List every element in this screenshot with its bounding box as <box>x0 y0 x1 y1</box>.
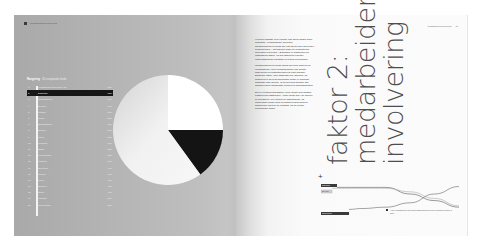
row-value: 41% <box>101 191 113 193</box>
note-bullet-icon <box>386 209 388 211</box>
legend-label: Danmark <box>322 184 330 186</box>
row-label: Medarbejderinvolvering i alt <box>35 86 101 88</box>
line-series <box>349 187 459 210</box>
running-title: Medarbejderinvolvering <box>30 22 57 25</box>
chart-note: Andel virksomheder med høj medarbejderin… <box>386 209 456 214</box>
row-value: 36% <box>101 204 113 206</box>
row-rank: 11 <box>27 148 35 150</box>
row-rank: 2 <box>27 92 35 94</box>
row-rank: 4 <box>27 105 35 107</box>
row-rank: 20 <box>27 204 35 206</box>
line-series <box>337 187 459 207</box>
pie-slice-white <box>168 75 223 130</box>
chart-note-text: Andel virksomheder med høj medarbejderin… <box>390 209 456 214</box>
pie-chart <box>110 72 226 188</box>
row-rank: 13 <box>27 160 35 162</box>
right-page: Medarbejderinvolvering 17 Hverken ansatt… <box>236 15 468 236</box>
row-rank: 18 <box>27 191 35 193</box>
row-rank: 8 <box>27 129 35 131</box>
row-rank: 10 <box>27 142 35 144</box>
list-title-rest: · 20 europæiske lande <box>41 78 67 81</box>
section-title: faktor 2: medarbeider- involvering <box>324 0 408 165</box>
row-label: Norge <box>35 117 101 119</box>
row-rank: 9 <box>27 136 35 138</box>
list-title: Rangering · 20 europæiske lande <box>27 78 113 81</box>
row-label: Italien <box>35 191 101 193</box>
right-page-header: Medarbejderinvolvering 17 <box>428 25 458 27</box>
line-series <box>332 188 459 206</box>
ranking-list: Rangering · 20 europæiske lande 1Medarbe… <box>27 78 113 208</box>
row-label: Tjekkiet <box>35 173 101 175</box>
row-label: Polen <box>35 179 101 181</box>
row-rank: 3 <box>27 98 35 100</box>
row-label: Slovenien <box>35 167 101 169</box>
row-label: Frankrig <box>35 160 101 162</box>
row-rank: 1 <box>27 86 35 88</box>
row-rank: 6 <box>27 117 35 119</box>
row-rank: 19 <box>27 197 35 199</box>
row-rank: 5 <box>27 111 35 113</box>
list-rows: 1Medarbejderinvolvering i alt57%2Danmark… <box>27 84 113 208</box>
left-page: Medarbejderinvolvering Rangering · 20 eu… <box>14 15 236 236</box>
row-label: Portugal <box>35 197 101 199</box>
row-label: Sverige <box>35 105 101 107</box>
row-label: Irland <box>35 136 101 138</box>
row-label: Belgien <box>35 129 101 131</box>
row-label: Luxembourg <box>35 154 101 156</box>
line-chart-svg: Danmark EU-snit Sydeuropa <box>321 181 461 231</box>
body-paragraph: Hverken ansatte eller ledelse kan alene … <box>255 38 315 61</box>
title-line: medarbeider- <box>352 0 380 165</box>
row-label: Grækenland <box>35 204 101 206</box>
row-label: Danmark <box>35 92 101 94</box>
legend-label: Sydeuropa <box>322 212 333 214</box>
row-label: Finland <box>35 111 101 113</box>
body-paragraph: Det er et åbent spørgsmål, hvor længe de… <box>255 91 315 111</box>
row-label: Tyskland <box>35 142 101 144</box>
row-label: Spanien <box>35 185 101 187</box>
row-rank: 15 <box>27 173 35 175</box>
title-line: involvering <box>380 0 408 165</box>
body-paragraph: Medarbejderinvolvering måles her som and… <box>255 64 315 87</box>
legend-label: EU-snit <box>322 190 329 192</box>
page-number: 17 <box>455 25 458 27</box>
header-square-icon <box>24 22 27 25</box>
row-rank: 16 <box>27 179 35 181</box>
magazine-spread: Medarbejderinvolvering Rangering · 20 eu… <box>14 15 468 236</box>
row-rank: 7 <box>27 123 35 125</box>
list-row: 20Grækenland36% <box>27 202 113 208</box>
pie-chart-svg <box>110 72 226 188</box>
plus-marker-icon: + <box>318 173 323 181</box>
left-page-header: Medarbejderinvolvering <box>24 22 57 25</box>
line-chart: Danmark EU-snit Sydeuropa <box>321 181 461 231</box>
row-label: Nederlandene <box>35 98 101 100</box>
row-value: 39% <box>101 197 113 199</box>
row-label: Østrig <box>35 148 101 150</box>
body-text: Hverken ansatte eller ledelse kan alene … <box>255 38 315 114</box>
row-label: Storbritannien <box>35 123 101 125</box>
running-title: Medarbejderinvolvering <box>428 25 452 27</box>
row-rank: 14 <box>27 167 35 169</box>
title-line: faktor 2: <box>324 0 352 165</box>
row-rank: 12 <box>27 154 35 156</box>
row-rank: 17 <box>27 185 35 187</box>
list-title-bold: Rangering <box>27 78 40 81</box>
